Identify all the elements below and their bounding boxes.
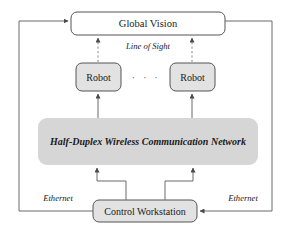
ethernet-left-link xyxy=(19,21,93,211)
workstation-to-network-left-riser xyxy=(97,168,126,200)
control-workstation-box xyxy=(93,200,197,222)
diagram-canvas: Global Vision Robot · · · Robot Half-Dup… xyxy=(0,0,292,237)
workstation-to-network-right-riser xyxy=(165,168,193,200)
global-vision-box xyxy=(71,12,225,35)
diagram-svg xyxy=(0,0,292,237)
wireless-network-band xyxy=(38,118,258,165)
robot-right-box xyxy=(170,63,215,91)
robot-left-box xyxy=(76,63,121,91)
ethernet-right-link xyxy=(200,21,272,211)
